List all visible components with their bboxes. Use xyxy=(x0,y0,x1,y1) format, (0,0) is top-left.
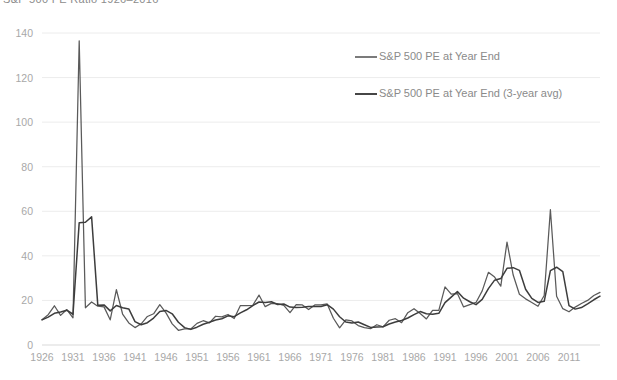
y-axis-tick-label: 60 xyxy=(21,205,33,217)
data-series-group xyxy=(42,41,600,330)
x-axis-tick-label: 2001 xyxy=(495,351,519,363)
x-axis-tick-label: 2006 xyxy=(526,351,550,363)
y-axis-tick-label: 120 xyxy=(15,72,33,84)
y-axis-ticks-group: 020406080100120140 xyxy=(15,27,33,351)
legend-label-1: S&P 500 PE at Year End xyxy=(379,50,500,62)
x-axis-tick-label: 1946 xyxy=(154,351,178,363)
x-axis-tick-label: 1926 xyxy=(30,351,54,363)
x-axis-tick-label: 1951 xyxy=(185,351,209,363)
x-axis-tick-label: 1956 xyxy=(216,351,240,363)
series-line-2 xyxy=(42,217,600,330)
x-axis-tick-label: 2011 xyxy=(558,351,581,363)
x-axis-tick-label: 1941 xyxy=(123,351,147,363)
y-axis-tick-label: 80 xyxy=(21,161,33,173)
x-axis-tick-label: 1996 xyxy=(464,351,488,363)
x-axis-tick-label: 1931 xyxy=(61,351,85,363)
y-axis-tick-label: 100 xyxy=(15,116,33,128)
x-axis-tick-label: 1961 xyxy=(247,351,271,363)
series-line-1 xyxy=(42,41,600,330)
x-axis-tick-label: 1971 xyxy=(309,351,333,363)
x-axis-tick-label: 1966 xyxy=(278,351,302,363)
x-axis-tick-label: 1981 xyxy=(371,351,395,363)
chart-legend: S&P 500 PE at Year EndS&P 500 PE at Year… xyxy=(355,50,562,99)
x-axis-ticks-group: 1926193119361941194619511956196119661971… xyxy=(30,351,580,363)
x-axis-tick-label: 1986 xyxy=(402,351,426,363)
y-axis-tick-label: 40 xyxy=(21,250,33,262)
chart-container: S&P 500 PE Ratio 1926–2016 0204060801001… xyxy=(0,0,617,380)
legend-label-2: S&P 500 PE at Year End (3-year avg) xyxy=(379,87,562,99)
gridlines-group xyxy=(42,33,600,345)
y-axis-tick-label: 0 xyxy=(27,339,33,351)
y-axis-tick-label: 20 xyxy=(21,294,33,306)
x-axis-tick-label: 1976 xyxy=(340,351,364,363)
x-axis-tick-label: 1991 xyxy=(433,351,457,363)
line-chart: 020406080100120140 192619311936194119461… xyxy=(0,0,617,380)
x-axis-tick-label: 1936 xyxy=(92,351,116,363)
y-axis-tick-label: 140 xyxy=(15,27,33,39)
